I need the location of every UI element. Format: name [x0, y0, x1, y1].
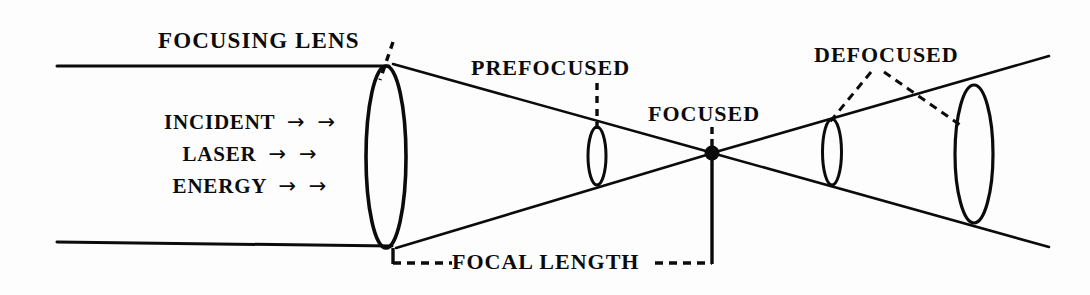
beam-label-word: LASER — [183, 142, 257, 166]
right-arrow-icon: → → — [273, 174, 330, 198]
incident-beam-bottom-ray — [57, 242, 392, 246]
defocused-near-plane-ellipse — [823, 119, 842, 185]
label-focused: FOCUSED — [648, 103, 760, 125]
defocused-far-plane-ellipse — [955, 85, 993, 223]
focusing-lens-leader-icon — [380, 42, 393, 80]
focusing-lens-ellipse — [366, 66, 406, 248]
right-arrow-icon: → → — [263, 142, 320, 166]
beam-label-word: ENERGY — [173, 174, 267, 198]
diverging-ray-upper — [712, 56, 1049, 153]
beam-label-line: ENERGY → → — [140, 174, 362, 199]
converging-ray-lower — [396, 153, 713, 248]
label-prefocused: PREFOCUSED — [471, 57, 630, 79]
beam-label-word: INCIDENT — [164, 110, 275, 134]
label-focusing-lens: FOCUSING LENS — [158, 29, 360, 52]
beam-label-line: INCIDENT → → — [140, 110, 362, 135]
diagram-canvas: FOCUSING LENS PREFOCUSED FOCUSED DEFOCUS… — [0, 0, 1090, 295]
diverging-ray-lower — [712, 153, 1049, 247]
prefocused-plane-ellipse — [588, 127, 606, 185]
incident-beam-label-block: INCIDENT → → LASER → → ENERGY → → — [140, 110, 362, 206]
right-arrow-icon: → → — [281, 110, 338, 134]
beam-label-line: LASER → → — [140, 142, 362, 167]
defocused-leader-left-icon — [829, 72, 871, 123]
label-defocused: DEFOCUSED — [814, 44, 959, 66]
label-focal-length: FOCAL LENGTH — [452, 251, 639, 273]
